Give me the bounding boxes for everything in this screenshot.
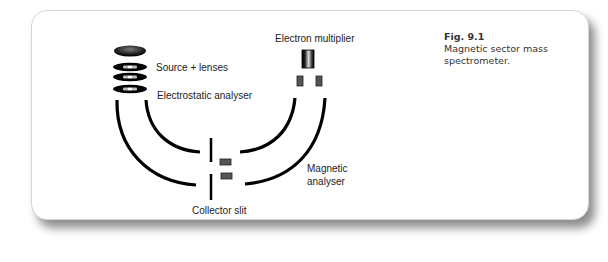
electron-multiplier-icon xyxy=(297,50,322,86)
label-magnetic-analyser-line2: analyser xyxy=(307,176,345,188)
lens-stack-icon xyxy=(113,63,147,93)
label-magnetic-analyser-line1: Magnetic xyxy=(307,163,348,175)
collector-slit xyxy=(211,138,232,200)
figure-caption: Fig. 9.1 Magnetic sector mass spectromet… xyxy=(444,31,554,67)
label-source-lenses: Source + lenses xyxy=(156,62,228,74)
label-electrostatic-analyser: Electrostatic analyser xyxy=(157,90,252,102)
label-collector-slit: Collector slit xyxy=(192,205,246,217)
figure-description: Magnetic sector mass spectrometer. xyxy=(444,43,554,67)
figure-number: Fig. 9.1 xyxy=(444,31,554,43)
electrostatic-analyser-plates xyxy=(117,100,200,185)
ion-source-icon xyxy=(114,46,146,57)
label-electron-multiplier: Electron multiplier xyxy=(275,33,354,45)
